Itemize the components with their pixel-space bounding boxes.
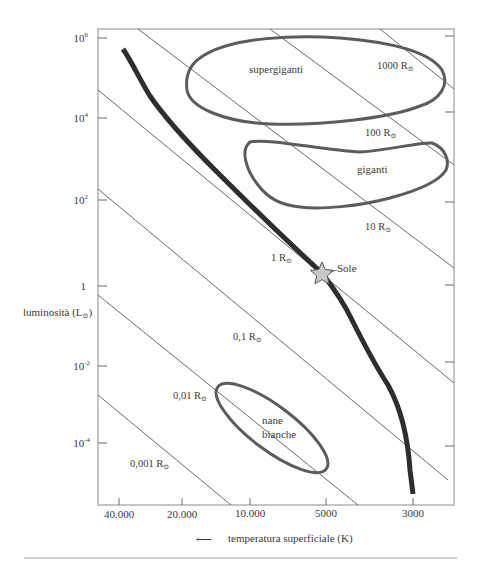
svg-text:10-4: 10-4 [73,436,90,449]
y-axis-label: luminosità (L⊙) [23,306,92,320]
x-ticks [119,498,413,505]
y-ticks-left [98,38,107,443]
supergiants-label: supergiganti [249,63,303,75]
sun-label: Sole [337,262,357,274]
svg-text:10-2: 10-2 [73,359,90,372]
svg-text:40.000: 40.000 [104,508,135,520]
svg-text:3000: 3000 [402,507,425,519]
svg-text:10.000: 10.000 [235,507,266,519]
bottom-divider [24,557,457,559]
svg-text:102: 102 [74,193,89,206]
white-dwarfs-label-line1: nane [262,414,283,426]
supergiants-region [187,37,445,125]
radius-line-1 [98,90,454,383]
x-axis-label: temperatura superficiale (K) [228,532,353,545]
radius-label-10: 10 R⊙ [365,221,391,234]
radius-line-0-001 [98,395,231,505]
svg-text:104: 104 [74,111,89,124]
white-dwarfs-label-line2: bianche [262,428,296,440]
radius-label-0-01: 0,01 R⊙ [173,390,207,403]
regions [187,37,448,487]
svg-text:106: 106 [74,31,89,44]
hr-diagram: supergiganti giganti nane bianche Sole 1… [0,0,477,572]
x-tick-labels: 40.000 20.000 10.000 5000 3000 [104,507,425,520]
svg-text:1: 1 [81,280,87,292]
radius-label-0-001: 0,001 R⊙ [130,458,169,471]
radius-label-1: 1 R⊙ [271,252,292,265]
radius-label-0-1: 0,1 R⊙ [233,331,262,344]
radius-label-100: 100 R⊙ [365,127,396,140]
svg-text:20.000: 20.000 [167,508,198,520]
y-tick-labels: 106 104 102 1 10-2 10-4 [73,31,90,449]
svg-text:5000: 5000 [315,507,338,519]
radius-line-1000 [380,29,454,89]
giants-region [245,141,447,208]
x-axis-arrow: ⟵ [196,533,212,545]
radius-label-1000: 1000 R⊙ [377,60,414,73]
y-ticks-right [445,36,454,446]
giants-label: giganti [357,163,388,175]
